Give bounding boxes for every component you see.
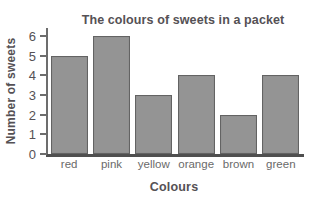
- bar-orange: [178, 75, 215, 154]
- x-tick-label-pink: pink: [90, 158, 132, 171]
- y-tick-label: 2: [29, 108, 36, 121]
- y-axis-title-container: Number of sweets: [0, 28, 22, 154]
- y-tick-label: 4: [29, 69, 36, 82]
- y-tick-label: 3: [29, 88, 36, 101]
- y-tick-1: 1: [40, 133, 47, 135]
- y-tick-5: 5: [40, 55, 47, 57]
- bar-red: [51, 56, 88, 154]
- y-tick-3: 3: [40, 94, 47, 96]
- x-tick-label-orange: orange: [175, 158, 217, 171]
- x-tick-label-yellow: yellow: [133, 158, 175, 171]
- bar-series: [48, 28, 302, 154]
- bar-brown: [220, 115, 257, 154]
- x-axis-title: Colours: [46, 180, 302, 194]
- x-tick-label-green: green: [260, 158, 302, 171]
- y-tick-label: 1: [29, 128, 36, 141]
- plot-area: 0123456: [46, 28, 302, 154]
- x-tick-label-brown: brown: [217, 158, 259, 171]
- y-tick-4: 4: [40, 74, 47, 76]
- y-tick-0: 0: [40, 153, 47, 155]
- bar-yellow: [135, 95, 172, 154]
- x-axis-tick-labels: redpinkyelloworangebrowngreen: [48, 158, 302, 174]
- x-tick-label-red: red: [48, 158, 90, 171]
- y-tick-2: 2: [40, 114, 47, 116]
- y-tick-label: 6: [29, 29, 36, 42]
- y-tick-label: 5: [29, 49, 36, 62]
- y-tick-6: 6: [40, 35, 47, 37]
- y-axis-title: Number of sweets: [4, 38, 18, 145]
- bar-pink: [93, 36, 130, 154]
- chart-title: The colours of sweets in a packet: [58, 13, 308, 27]
- bar-chart: The colours of sweets in a packet Number…: [0, 0, 315, 203]
- x-axis-line: [46, 154, 304, 157]
- bar-green: [262, 75, 299, 154]
- y-tick-label: 0: [29, 148, 36, 161]
